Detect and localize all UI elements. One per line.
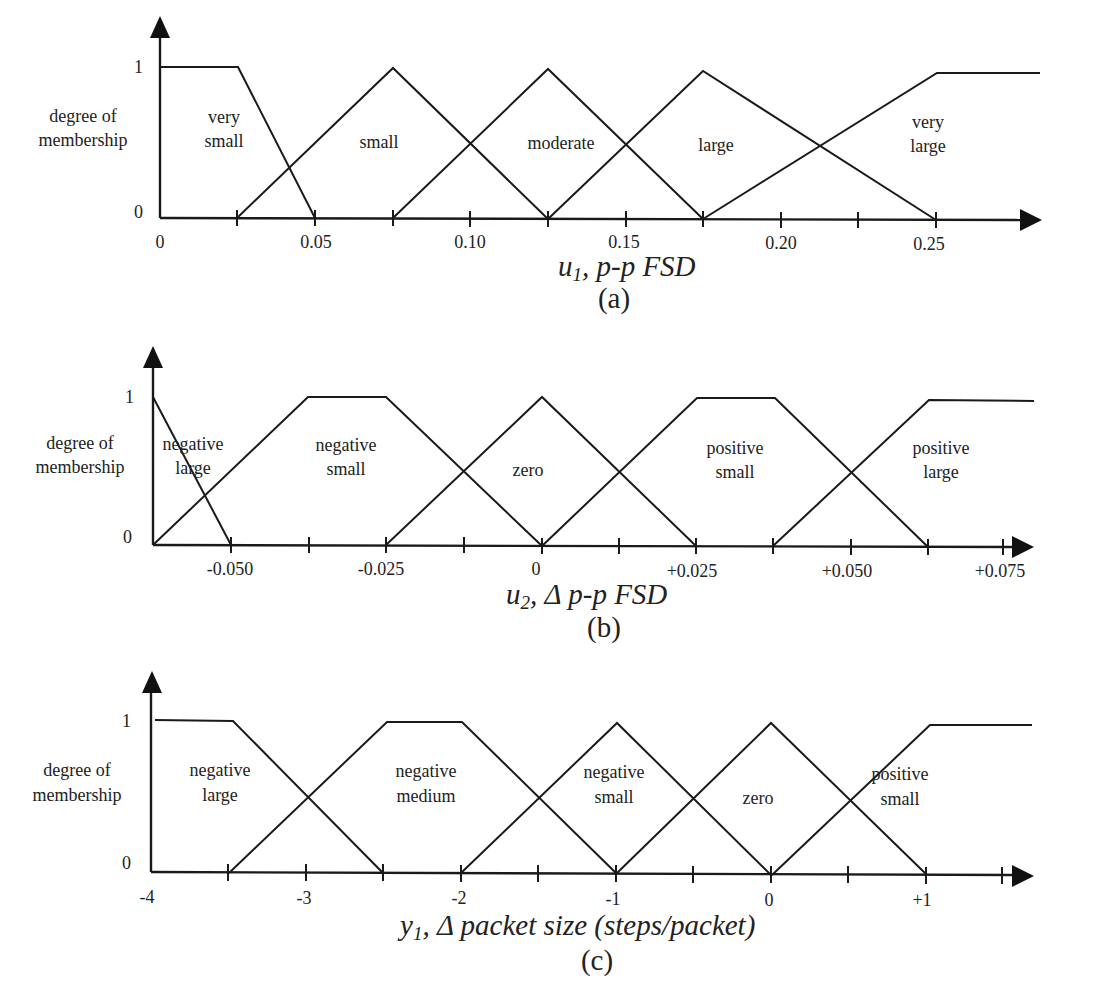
x-axis-title: y1, Δ packet size (steps/packet) — [397, 909, 755, 944]
x-tick-label: -2 — [452, 888, 467, 908]
set-label-small: small — [360, 132, 399, 152]
set-label-zero: zero — [743, 788, 774, 808]
set-label-very-small: very — [208, 107, 240, 127]
x-axis-arrow-icon — [1012, 536, 1034, 558]
x-tick-label: 0.10 — [454, 232, 486, 252]
x-axis — [153, 545, 1012, 547]
y-axis-label-line2: membership — [39, 130, 128, 150]
panel-label: (b) — [587, 611, 621, 644]
panel-c: 1 0 degree of membership -4 -3 -2 -1 0 +… — [33, 671, 1034, 977]
y-axis-label-line2: membership — [36, 457, 125, 477]
x-tick-label: 0.25 — [913, 234, 945, 254]
x-tick-label: -0.050 — [207, 559, 254, 579]
y-axis-label-line1: degree of — [49, 106, 116, 126]
x-tick-label: 0 — [765, 890, 774, 910]
set-label-zero: zero — [513, 460, 544, 480]
y-tick-1: 1 — [134, 57, 143, 77]
y-axis-label-line2: membership — [33, 785, 122, 805]
x-tick-label: -0.025 — [358, 559, 405, 579]
x-axis — [151, 872, 1012, 875]
y-tick-0: 0 — [134, 202, 143, 222]
x-tick-label: -4 — [140, 887, 155, 907]
y-tick-0: 0 — [123, 527, 132, 547]
set-label-negative-small: negative — [316, 435, 377, 455]
x-tick-label: 0 — [156, 232, 165, 252]
set-label-very-small-2: small — [205, 131, 244, 151]
x-tick-label: +0.050 — [822, 561, 873, 581]
mf-large — [548, 71, 936, 220]
panel-label: (c) — [581, 944, 613, 977]
panel-label: (a) — [598, 282, 630, 315]
set-label-negative-large-2: large — [175, 458, 211, 478]
x-axis — [160, 218, 1020, 220]
y-axis-arrow-icon — [143, 346, 163, 368]
x-tick-label: +0.025 — [667, 561, 718, 581]
x-axis-arrow-icon — [1020, 209, 1042, 231]
set-label-negative-medium-2: medium — [397, 786, 456, 806]
x-tick-label: 0.05 — [300, 232, 332, 252]
set-label-negative-medium: negative — [396, 761, 457, 781]
set-label-negative-small-2: small — [327, 459, 366, 479]
membership-function-figure: 1 0 degree of membership 0 0.05 0.10 0.1… — [0, 0, 1101, 1007]
set-label-negative-large-2: large — [202, 785, 238, 805]
mf-very-large — [703, 73, 1040, 219]
x-tick-label: 0 — [532, 559, 541, 579]
x-axis-arrow-icon — [1012, 865, 1034, 887]
y-tick-1: 1 — [122, 711, 131, 731]
set-label-positive-small: positive — [872, 764, 929, 784]
y-tick-0: 0 — [122, 853, 131, 873]
x-tick-label: +1 — [912, 890, 931, 910]
set-label-negative-small: negative — [584, 762, 645, 782]
set-label-very-large-2: large — [910, 136, 946, 156]
panel-b: 1 0 degree of membership -0.050 -0.025 0… — [36, 346, 1034, 644]
y-axis-label-line1: degree of — [46, 433, 113, 453]
x-tick-label: 0.15 — [608, 232, 640, 252]
x-tick-label: -1 — [606, 889, 621, 909]
set-label-positive-small-2: small — [716, 462, 755, 482]
x-tick-label: -3 — [297, 888, 312, 908]
y-axis-label-line1: degree of — [43, 760, 110, 780]
set-label-moderate: moderate — [528, 133, 595, 153]
set-label-positive-small-2: small — [881, 789, 920, 809]
set-label-very-large: very — [912, 112, 944, 132]
y-tick-1: 1 — [125, 387, 134, 407]
set-label-positive-large-2: large — [923, 462, 959, 482]
x-tick-label: +0.075 — [975, 561, 1026, 581]
set-label-negative-large: negative — [163, 434, 224, 454]
set-label-positive-large: positive — [913, 438, 970, 458]
set-label-positive-small: positive — [707, 438, 764, 458]
x-tick-label: 0.20 — [765, 233, 797, 253]
panel-a: 1 0 degree of membership 0 0.05 0.10 0.1… — [39, 16, 1042, 315]
y-axis-arrow-icon — [150, 16, 170, 38]
set-label-negative-large: negative — [190, 760, 251, 780]
y-axis-arrow-icon — [142, 671, 162, 693]
x-axis-title: u2, Δ p-p FSD — [506, 578, 667, 613]
set-label-large: large — [698, 135, 734, 155]
set-label-negative-small-2: small — [595, 787, 634, 807]
mf-negative-large — [155, 720, 383, 873]
x-axis-title: u1, p-p FSD — [558, 250, 696, 285]
